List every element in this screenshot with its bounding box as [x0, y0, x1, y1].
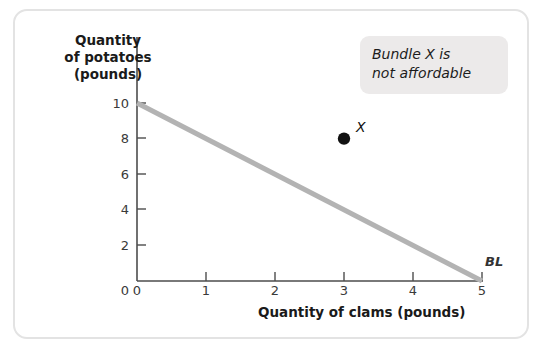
y-axis-ticks [137, 103, 146, 245]
y-axis-title: Quantity of potatoes (pounds) [53, 32, 163, 83]
bundle-point-x [338, 132, 350, 144]
y-axis-title-line2: of potatoes [53, 49, 163, 66]
y-tick-label-2: 2 [99, 238, 129, 253]
figure-panel: Quantity of potatoes (pounds) Quantity o… [13, 9, 529, 339]
annotation-box: Bundle X is not affordable [360, 36, 508, 94]
x-tick-label-1: 1 [193, 283, 219, 298]
x-tick-label-3: 3 [331, 283, 357, 298]
y-tick-label-4: 4 [99, 202, 129, 217]
y-tick-label-8: 8 [99, 131, 129, 146]
x-tick-label-4: 4 [400, 283, 426, 298]
x-axis-ticks [206, 272, 482, 281]
x-tick-label-5: 5 [469, 283, 495, 298]
x-axis-title: Quantity of clams (pounds) [258, 304, 465, 321]
budget-line-bl [137, 103, 482, 281]
x-tick-label-0: 0 [124, 283, 150, 298]
y-tick-label-6: 6 [99, 167, 129, 182]
y-axis-title-line3: (pounds) [53, 66, 163, 83]
annotation-line-2: not affordable [372, 64, 498, 83]
x-tick-label-2: 2 [262, 283, 288, 298]
y-tick-label-10: 10 [99, 96, 129, 111]
y-axis-title-line1: Quantity [53, 32, 163, 49]
annotation-line-1: Bundle X is [372, 45, 498, 64]
chart-plot-area: Quantity of potatoes (pounds) Quantity o… [15, 11, 531, 341]
budget-line-label: BL [485, 254, 503, 269]
bundle-point-x-label: X [356, 119, 366, 135]
